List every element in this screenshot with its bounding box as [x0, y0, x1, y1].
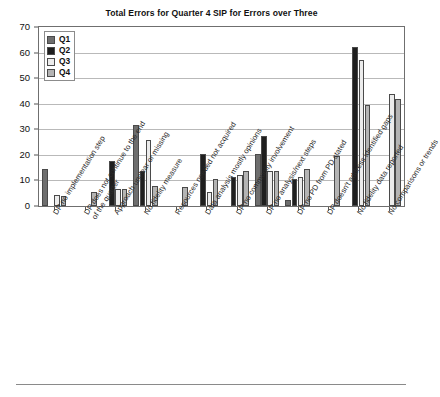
y-tick-label: 30	[19, 125, 30, 135]
bar-q3[interactable]	[359, 60, 365, 206]
legend-swatch-icon	[47, 69, 55, 77]
y-tick-label: 10	[19, 176, 30, 186]
x-tick-mark	[358, 207, 359, 211]
legend-swatch-icon	[47, 36, 55, 44]
legend-swatch-icon	[47, 47, 55, 55]
footer-divider	[16, 384, 406, 385]
legend-label: Q3	[59, 57, 70, 66]
chart-legend[interactable]: Q1Q2Q3Q4	[44, 31, 75, 81]
y-tick-label: 50	[19, 73, 30, 83]
chart-title: Total Errors for Quarter 4 SIP for Error…	[0, 8, 423, 18]
x-tick-mark	[145, 207, 146, 211]
legend-label: Q2	[59, 46, 70, 55]
x-tick-mark	[85, 207, 86, 211]
y-tick-label: 40	[19, 99, 30, 109]
x-tick-mark	[298, 207, 299, 211]
bar-q1[interactable]	[285, 200, 291, 206]
legend-item-q2[interactable]: Q2	[47, 45, 70, 56]
y-tick-label: 70	[19, 22, 30, 32]
x-tick-mark	[237, 207, 238, 211]
bar-q1[interactable]	[42, 169, 48, 206]
x-tick-mark	[389, 207, 390, 211]
legend-label: Q1	[59, 35, 70, 44]
y-tick-label: 60	[19, 48, 30, 58]
legend-label: Q4	[59, 68, 70, 77]
y-tick-label: 0	[25, 201, 30, 211]
legend-item-q1[interactable]: Q1	[47, 34, 70, 45]
legend-swatch-icon	[47, 58, 55, 66]
y-tick-label: 20	[19, 150, 30, 160]
x-tick-mark	[206, 207, 207, 211]
x-tick-mark	[115, 207, 116, 211]
legend-item-q4[interactable]: Q4	[47, 67, 70, 78]
x-tick-mark	[176, 207, 177, 211]
x-tick-mark	[328, 207, 329, 211]
y-axis: 010203040506070	[0, 26, 38, 208]
legend-item-q3[interactable]: Q3	[47, 56, 70, 67]
x-tick-mark	[267, 207, 268, 211]
x-tick-mark	[54, 207, 55, 211]
